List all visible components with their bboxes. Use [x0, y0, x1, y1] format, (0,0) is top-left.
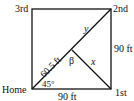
- home-to-pitcher-length: 60.5 ft: [38, 55, 63, 80]
- bottom-side-length: 90 ft: [58, 91, 77, 101]
- first-base-label: 1st: [115, 87, 127, 98]
- third-base-label: 3rd: [15, 3, 28, 14]
- home-angle: 45°: [42, 79, 55, 89]
- pitcher-to-second-y: y: [83, 23, 89, 34]
- pitcher-to-first-x: x: [90, 56, 96, 67]
- right-side-length: 90 ft: [114, 43, 133, 54]
- baseball-diamond-diagram: 3rd 2nd Home 1st 90 ft 90 ft 60.5 ft 45°…: [0, 0, 134, 101]
- pitcher-angle-beta: β: [69, 55, 74, 66]
- home-plate-label: Home: [2, 84, 27, 95]
- second-base-label: 2nd: [113, 3, 128, 14]
